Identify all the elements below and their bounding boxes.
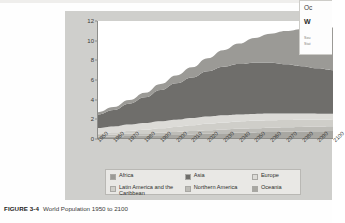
overlay-panel[interactable]: Oc W Sou Stat [299, 0, 332, 55]
legend-label-northern-america: Northern America [194, 185, 238, 191]
x-axis-ticks: 1950196019701980199020002010202020302040… [97, 139, 333, 169]
legend-item-oceania[interactable]: Oceania [252, 185, 296, 192]
legend-item-europe[interactable]: Europe [252, 173, 296, 180]
legend-label-europe: Europe [261, 173, 279, 179]
overlay-source-line-1: Sou [304, 36, 310, 40]
figure-panel: Billions 024681012 195019601970198019902… [65, 11, 332, 200]
legend-label-asia: Asia [194, 173, 205, 179]
figure-number: FIGURE 3-4 [4, 205, 39, 212]
legend-row: Latin America and the Caribbean Northern… [110, 185, 296, 196]
legend-item-latin-america[interactable]: Latin America and the Caribbean [110, 185, 185, 196]
legend-swatch-northern-america [185, 186, 191, 192]
legend-swatch-europe [252, 174, 258, 180]
y-tick-label: 4 [91, 97, 94, 103]
x-tick-label: 2100 [332, 130, 345, 143]
legend-item-africa[interactable]: Africa [110, 173, 185, 180]
legend-label-latin-america: Latin America and the Caribbean [119, 185, 185, 196]
overlay-line-world: W [304, 18, 311, 25]
chart-legend: Africa Asia Europe Latin America and the… [105, 169, 301, 195]
overlay-source-line-2: Stat [304, 42, 310, 46]
y-tick-label: 0 [91, 136, 94, 142]
stacked-area-chart [98, 21, 333, 138]
legend-swatch-latin-america [110, 186, 116, 192]
overlay-line-oceania: Oc [304, 4, 312, 11]
y-tick-label: 10 [87, 38, 94, 44]
y-tick-label: 6 [91, 77, 94, 83]
plot-area-wrapper: Billions 024681012 [97, 21, 333, 139]
legend-label-africa: Africa [119, 173, 133, 179]
y-tick-label: 8 [91, 57, 94, 63]
legend-swatch-oceania [252, 186, 258, 192]
y-tick-label: 12 [87, 18, 94, 24]
legend-swatch-asia [185, 174, 191, 180]
legend-item-asia[interactable]: Asia [185, 173, 252, 180]
page-top-edge [0, 0, 332, 3]
plot-area [97, 21, 333, 139]
legend-item-northern-america[interactable]: Northern America [185, 185, 252, 192]
legend-row: Africa Asia Europe [110, 173, 296, 184]
figure-caption: FIGURE 3-4World Population 1950 to 2100 [4, 205, 128, 212]
y-tick-label: 2 [91, 116, 94, 122]
figure-title: World Population 1950 to 2100 [43, 205, 128, 212]
legend-label-oceania: Oceania [261, 185, 282, 191]
legend-swatch-africa [110, 174, 116, 180]
